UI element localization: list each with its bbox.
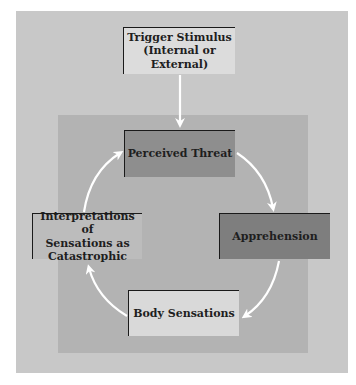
trigger-line-1: Trigger Stimulus (124, 31, 235, 45)
interpretations-line-2: Sensations as (33, 237, 142, 251)
perceived-threat-box: Perceived Threat (124, 130, 235, 177)
interpretations-line-3: Catastrophic (33, 250, 142, 264)
interpretations-box: Interpretations of Sensations as Catastr… (32, 213, 142, 259)
apprehension-label: Apprehension (232, 230, 317, 244)
apprehension-box: Apprehension (219, 213, 330, 259)
perceived-threat-label: Perceived Threat (128, 147, 233, 161)
body-sensations-label: Body Sensations (133, 307, 235, 321)
body-sensations-box: Body Sensations (128, 290, 239, 336)
trigger-line-2: (Internal or External) (124, 44, 235, 71)
trigger-stimulus-box: Trigger Stimulus (Internal or External) (123, 27, 235, 74)
interpretations-line-1: Interpretations of (33, 210, 142, 237)
